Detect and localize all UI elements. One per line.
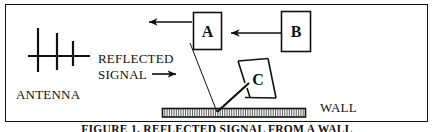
antenna-label: ANTENNA — [16, 87, 81, 102]
box-b: B — [282, 12, 311, 52]
object-c: C — [238, 59, 276, 99]
wall-hatching — [165, 109, 303, 117]
wall-label: WALL — [320, 100, 357, 115]
figure-border — [6, 5, 428, 122]
box-a: A — [194, 13, 222, 50]
box-a-letter: A — [202, 23, 214, 40]
wall-bar — [163, 109, 306, 118]
antenna-symbol — [28, 28, 90, 72]
figure-caption: FIGURE 1. REFLECTED SIGNAL FROM A WALL — [81, 123, 353, 132]
object-c-edge-right — [268, 59, 276, 99]
object-c-edge-left-upper — [238, 61, 245, 83]
reflected-ray-line — [217, 83, 249, 112]
box-b-letter: B — [291, 23, 302, 40]
diagram-canvas: ANTENNA REFLECTED SIGNAL A B — [0, 0, 435, 132]
incident-ray-line — [190, 43, 217, 112]
object-c-edge-left-lower — [247, 88, 250, 98]
object-c-edge-top — [238, 59, 268, 62]
reflected-signal-label-line1: REFLECTED — [98, 51, 173, 66]
figure-container: ANTENNA REFLECTED SIGNAL A B — [0, 0, 435, 132]
reflected-signal-label-line2: SIGNAL — [98, 67, 147, 82]
object-c-letter: C — [252, 71, 264, 88]
